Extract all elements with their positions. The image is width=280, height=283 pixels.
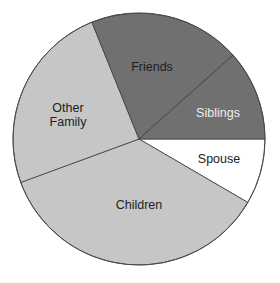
- slice-label-siblings: Siblings: [196, 106, 240, 120]
- pie-chart: SpouseChildrenOtherFamilyFriendsSiblings: [0, 0, 280, 283]
- slice-label-friends: Friends: [131, 60, 173, 74]
- slice-label-children: Children: [116, 198, 163, 212]
- slice-label-spouse: Spouse: [198, 152, 240, 166]
- slice-label-other-family: OtherFamily: [50, 101, 88, 129]
- pie-slices: [13, 13, 265, 265]
